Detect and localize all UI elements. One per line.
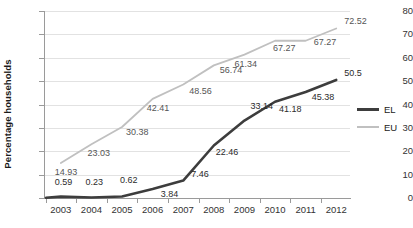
- series-lines: [0, 0, 413, 228]
- data-label-eu: 14.93: [55, 167, 78, 177]
- data-label-eu: 61.34: [234, 59, 257, 69]
- data-label-el: 22.46: [216, 147, 239, 157]
- data-label-el: 33.14: [250, 101, 273, 111]
- data-label-el: 41.18: [279, 104, 302, 114]
- line-chart: Percentage households 01020304050607080 …: [0, 0, 413, 228]
- data-label-eu: 72.52: [344, 16, 367, 26]
- data-label-eu: 30.38: [126, 127, 149, 137]
- data-label-eu: 42.41: [147, 103, 170, 113]
- legend-item-el[interactable]: EL: [357, 100, 397, 118]
- legend-label-eu: EU: [384, 122, 397, 133]
- data-label-el: 45.38: [312, 92, 335, 102]
- data-label-eu: 67.27: [273, 43, 296, 53]
- legend-label-el: EL: [384, 104, 396, 115]
- data-label-el: 3.84: [161, 189, 179, 199]
- data-label-el: 50.5: [344, 68, 362, 78]
- legend-swatch-el-icon: [357, 108, 379, 111]
- data-label-el: 0.23: [85, 177, 103, 187]
- data-label-eu: 23.03: [87, 148, 110, 158]
- data-label-el: 7.46: [191, 169, 209, 179]
- data-label-eu: 67.27: [314, 37, 337, 47]
- data-label-eu: 48.56: [189, 86, 212, 96]
- chart-legend: EL EU: [357, 100, 397, 136]
- legend-item-eu[interactable]: EU: [357, 118, 397, 136]
- data-label-el: 0.62: [120, 175, 138, 185]
- legend-swatch-eu-icon: [357, 126, 379, 128]
- data-label-el: 0.59: [55, 177, 73, 187]
